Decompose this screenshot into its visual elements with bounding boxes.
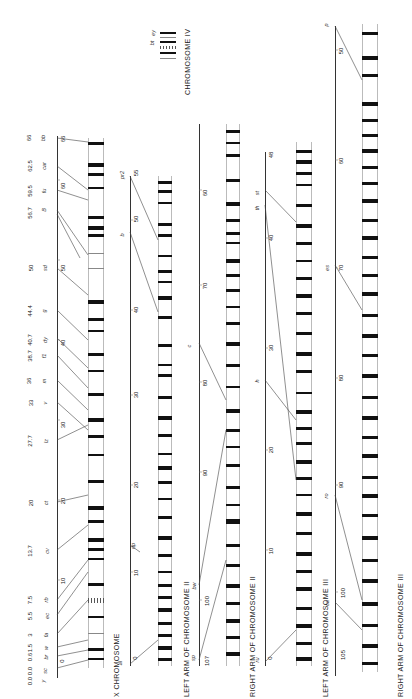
- 3l-chromosome-body: [296, 142, 312, 666]
- chromosome-iv-body: [160, 28, 176, 64]
- 2r-chromosome-body: [226, 124, 240, 666]
- 2r-chromosome-title: RIGHT ARM OF CHROMOSOME II: [249, 576, 256, 697]
- locus-label: dp: [130, 543, 136, 549]
- locus-label: p: [323, 23, 329, 26]
- locus-label: es: [324, 265, 330, 271]
- locus-label: b: [119, 233, 125, 236]
- locus-label: bt: [149, 41, 155, 46]
- 2l-chromosome-title: LEFT ARM OF CHROMOSOME II: [183, 581, 190, 697]
- 2r-scale-axis: [199, 124, 200, 666]
- locus-label: th: [254, 206, 260, 211]
- locus-connector-lines: [0, 0, 412, 699]
- locus-label: ru: [254, 658, 260, 663]
- 3r-chromosome-title: RIGHT ARM OF CHROMOSOME III: [397, 574, 404, 697]
- x-scale-axis: [57, 136, 58, 678]
- locus-label: ey: [150, 30, 156, 36]
- locus-label: bw: [191, 582, 197, 589]
- x-chromosome-body: [88, 138, 104, 668]
- locus-label: ro: [323, 494, 329, 499]
- 3r-scale-axis: [335, 26, 336, 676]
- 2l-chromosome-body: [158, 176, 172, 666]
- 3l-chromosome-title: LEFT ARM OF CHROMOSOME III: [322, 579, 329, 697]
- locus-label: c: [186, 345, 192, 348]
- locus-label: st: [254, 191, 260, 195]
- locus-label: h: [254, 379, 260, 382]
- locus-label: ca: [324, 600, 330, 606]
- locus-label: pr2: [119, 171, 125, 179]
- chromosome-iv-title: CHROMOSOME IV: [184, 29, 191, 95]
- locus-label: al: [117, 661, 123, 665]
- 3l-scale-axis: [265, 152, 266, 666]
- locus-label: sp: [190, 655, 196, 661]
- 2l-scale-axis: [130, 176, 131, 666]
- 3r-chromosome-body: [362, 24, 378, 672]
